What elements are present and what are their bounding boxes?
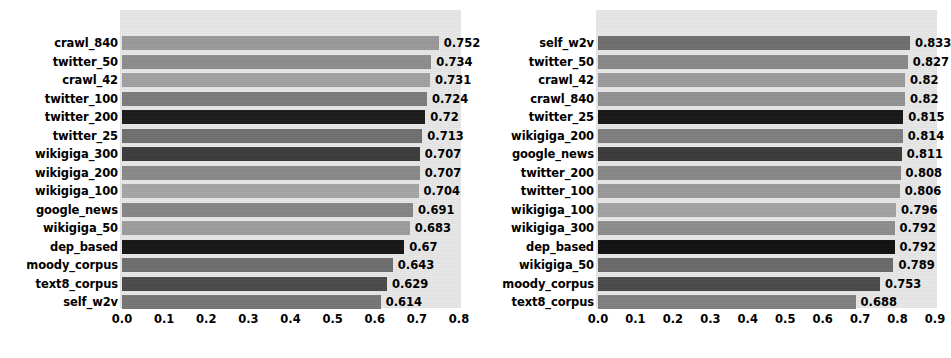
- bar: [598, 55, 908, 69]
- bar-texture: [598, 203, 896, 217]
- bar: [122, 55, 431, 69]
- bar-value-label: 0.691: [413, 203, 454, 217]
- bar-value-label: 0.811: [902, 147, 943, 161]
- bar-value-label: 0.808: [901, 166, 942, 180]
- bar-texture: [598, 240, 895, 254]
- bar-texture: [122, 203, 413, 217]
- category-label: wikigiga_50: [519, 258, 598, 272]
- category-label: text8_corpus: [36, 277, 122, 291]
- bar-texture: [122, 258, 393, 272]
- bar-texture: [598, 221, 895, 235]
- bar-texture: [122, 147, 420, 161]
- bar: [598, 73, 905, 87]
- bar: [598, 36, 910, 50]
- x-tick-label: 0.1: [154, 312, 174, 326]
- x-tick-label: 0.8: [887, 312, 907, 326]
- bar: [598, 277, 880, 291]
- bar-texture: [598, 277, 880, 291]
- bar: [598, 92, 905, 106]
- bar-value-label: 0.724: [427, 92, 468, 106]
- bar: [598, 110, 903, 124]
- bar-texture: [122, 295, 381, 309]
- bar: [598, 129, 903, 143]
- category-label: twitter_100: [521, 184, 598, 198]
- x-tick-label: 0.7: [407, 312, 427, 326]
- bar-value-label: 0.713: [422, 129, 463, 143]
- bar-value-label: 0.789: [893, 258, 934, 272]
- bar-value-label: 0.806: [900, 184, 941, 198]
- bar: [122, 184, 419, 198]
- bar-value-label: 0.629: [387, 277, 428, 291]
- bar-value-label: 0.792: [895, 240, 936, 254]
- bar: [598, 221, 895, 235]
- category-label: twitter_200: [521, 166, 598, 180]
- bar: [598, 240, 895, 254]
- bar: [122, 221, 410, 235]
- bar: [122, 92, 427, 106]
- x-tick-label: 0.2: [196, 312, 216, 326]
- x-tick-label: 0.6: [365, 312, 385, 326]
- x-tick-label: 0.3: [700, 312, 720, 326]
- bar-value-label: 0.82: [905, 92, 938, 106]
- category-label: wikigiga_200: [35, 166, 122, 180]
- x-tick-label: 0.1: [625, 312, 645, 326]
- category-label: wikigiga_100: [35, 184, 122, 198]
- bar-texture: [598, 184, 900, 198]
- category-label: crawl_840: [530, 92, 598, 106]
- bar-value-label: 0.796: [896, 203, 937, 217]
- bar: [122, 36, 439, 50]
- x-tick-label: 0.4: [738, 312, 758, 326]
- bar-value-label: 0.704: [419, 184, 460, 198]
- bar-value-label: 0.792: [895, 221, 936, 235]
- bar-value-label: 0.683: [410, 221, 451, 235]
- bar-texture: [598, 295, 856, 309]
- bar-rows-left: crawl_8400.752twitter_500.734crawl_420.7…: [0, 0, 474, 358]
- bar: [122, 129, 422, 143]
- bar-value-label: 0.688: [856, 295, 897, 309]
- category-label: dep_based: [50, 240, 122, 254]
- category-label: wikigiga_50: [43, 221, 122, 235]
- category-label: wikigiga_200: [511, 129, 598, 143]
- x-tick-label: 0.4: [280, 312, 300, 326]
- category-label: wikigiga_100: [511, 203, 598, 217]
- category-label: twitter_50: [529, 55, 598, 69]
- bar-value-label: 0.643: [393, 258, 434, 272]
- x-tick-label: 0.9: [925, 312, 945, 326]
- category-label: twitter_200: [45, 110, 122, 124]
- bar-texture: [598, 258, 893, 272]
- x-tick-label: 0.2: [663, 312, 683, 326]
- bar-texture: [122, 92, 427, 106]
- bar: [598, 203, 896, 217]
- bar: [598, 147, 902, 161]
- bar-texture: [598, 55, 908, 69]
- category-label: self_w2v: [539, 36, 598, 50]
- bar-value-label: 0.827: [908, 55, 949, 69]
- bar-value-label: 0.67: [404, 240, 437, 254]
- bar-texture: [122, 221, 410, 235]
- bar-texture: [598, 166, 901, 180]
- category-label: twitter_100: [45, 92, 122, 106]
- bar-texture: [122, 110, 425, 124]
- bar: [122, 277, 387, 291]
- category-label: dep_based: [526, 240, 598, 254]
- bar-texture: [122, 73, 430, 87]
- bar-texture: [598, 73, 905, 87]
- bar: [122, 295, 381, 309]
- bar: [122, 166, 420, 180]
- bar-texture: [122, 55, 431, 69]
- bar-value-label: 0.707: [420, 147, 461, 161]
- bar-value-label: 0.815: [903, 110, 944, 124]
- category-label: crawl_42: [62, 73, 122, 87]
- x-tick-label: 0.3: [238, 312, 258, 326]
- category-label: moody_corpus: [26, 258, 122, 272]
- bar-value-label: 0.731: [430, 73, 471, 87]
- bar: [122, 203, 413, 217]
- category-label: google_news: [36, 203, 122, 217]
- bar-texture: [122, 129, 422, 143]
- bar: [598, 166, 901, 180]
- bar-value-label: 0.833: [910, 36, 951, 50]
- x-tick-label: 0.8: [449, 312, 469, 326]
- bar: [598, 258, 893, 272]
- bar-texture: [598, 129, 903, 143]
